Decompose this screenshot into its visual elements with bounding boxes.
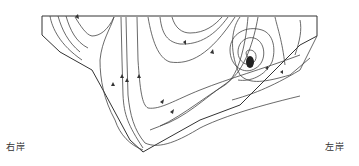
right-bank-label: 右岸 <box>6 140 25 153</box>
left-bank-label: 左岸 <box>325 140 344 153</box>
vortex-core <box>246 56 254 68</box>
streamline-diagram <box>0 0 359 166</box>
channel-outline <box>42 16 317 152</box>
streamlines <box>50 16 317 150</box>
